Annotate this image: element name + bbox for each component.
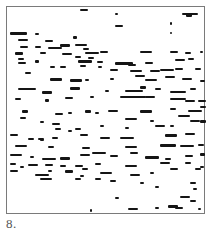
dash-stroke	[115, 13, 118, 15]
dash-stroke	[200, 80, 205, 82]
dash-stroke	[80, 9, 88, 11]
dash-stroke	[170, 108, 176, 110]
dash-stroke	[200, 106, 206, 108]
dash-stroke	[35, 33, 39, 35]
dash-stroke	[35, 174, 49, 176]
dash-stroke	[15, 98, 21, 100]
dash-stroke	[186, 14, 192, 17]
dash-stroke	[135, 75, 145, 77]
dash-stroke	[45, 164, 53, 166]
dash-stroke	[120, 96, 146, 98]
dash-stroke	[178, 115, 190, 117]
dash-stroke	[45, 99, 49, 102]
dash-stroke	[185, 155, 193, 157]
dash-stroke	[185, 52, 191, 54]
dash-stroke	[145, 96, 155, 98]
dash-stroke	[100, 172, 112, 174]
dash-stroke	[88, 57, 94, 59]
dash-stroke	[100, 137, 110, 139]
dash-stroke	[170, 125, 174, 127]
dash-stroke	[90, 209, 92, 212]
dash-stroke	[170, 98, 186, 100]
dash-stroke	[97, 61, 103, 63]
dash-stroke	[18, 88, 36, 90]
dash-stroke	[48, 47, 62, 49]
dash-stroke	[128, 64, 136, 66]
dash-stroke	[140, 110, 152, 113]
dash-stroke	[90, 96, 94, 98]
dash-stroke	[160, 162, 170, 164]
dash-stroke	[190, 88, 196, 90]
dash-stroke	[20, 166, 24, 168]
dash-stroke	[15, 52, 23, 55]
dash-stroke	[70, 79, 82, 82]
dash-stroke	[28, 138, 34, 140]
dash-stroke	[35, 46, 41, 48]
dash-stroke	[40, 139, 44, 141]
dash-stroke	[10, 32, 27, 35]
dash-stroke	[48, 170, 52, 172]
dash-stroke	[110, 78, 114, 80]
dash-stroke	[95, 112, 99, 114]
dash-stroke	[92, 152, 106, 154]
dash-stroke	[18, 39, 28, 41]
dash-stroke	[120, 137, 134, 139]
dash-stroke	[75, 128, 81, 130]
dash-stroke	[190, 182, 196, 184]
dash-stroke	[170, 22, 172, 25]
dash-stroke	[195, 168, 201, 170]
dash-stroke	[155, 186, 159, 188]
dash-stroke	[80, 154, 90, 156]
dash-stroke	[125, 165, 137, 167]
dash-stroke	[175, 207, 183, 209]
dash-stroke	[18, 62, 26, 64]
dash-stroke	[10, 163, 16, 165]
dash-stroke	[185, 100, 195, 102]
dash-stroke	[82, 147, 90, 149]
dash-stroke	[190, 120, 200, 122]
dash-stroke	[180, 196, 190, 198]
dash-stroke	[145, 79, 157, 81]
dash-stroke	[115, 197, 119, 199]
dash-stroke	[42, 158, 56, 160]
dash-stroke	[125, 118, 137, 120]
dash-stroke	[195, 68, 201, 70]
dash-stroke	[70, 87, 80, 90]
dash-stroke	[128, 208, 138, 210]
dash-stroke	[80, 175, 84, 177]
dash-stroke	[28, 164, 38, 166]
dash-stroke	[55, 128, 61, 130]
dash-stroke	[30, 156, 34, 158]
dash-stroke	[193, 188, 197, 190]
dash-stroke	[75, 44, 87, 46]
dash-stroke	[198, 208, 201, 210]
dash-stroke	[110, 69, 118, 71]
dash-stroke	[48, 146, 54, 148]
dash-stroke	[52, 137, 58, 139]
dash-stroke	[115, 25, 123, 27]
stroke-field	[0, 0, 215, 233]
figure-label: 8.	[6, 216, 17, 231]
dash-stroke	[65, 170, 73, 173]
dash-stroke	[100, 51, 108, 53]
dash-stroke	[165, 134, 177, 137]
dash-stroke	[25, 72, 31, 74]
dash-stroke	[20, 46, 28, 48]
dash-stroke	[200, 120, 206, 123]
dash-stroke	[155, 125, 165, 127]
dash-stroke	[145, 156, 159, 159]
dash-stroke	[75, 165, 83, 167]
dash-stroke	[160, 144, 176, 147]
dash-stroke	[60, 165, 66, 167]
dash-stroke	[125, 90, 143, 92]
dash-stroke	[80, 65, 86, 67]
dash-stroke	[165, 76, 175, 78]
dash-stroke	[198, 144, 204, 146]
dash-stroke	[62, 53, 72, 55]
dash-stroke	[85, 52, 99, 54]
dash-stroke	[40, 121, 44, 123]
dash-stroke	[20, 117, 26, 119]
dash-stroke	[175, 59, 185, 61]
dash-stroke	[150, 172, 154, 174]
dash-stroke	[60, 44, 70, 47]
